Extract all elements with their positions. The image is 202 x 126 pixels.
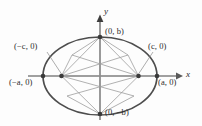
leader-right-focus (139, 52, 154, 74)
label-left-focus: (−c, 0) (14, 42, 37, 51)
point-bottom-vertex (98, 112, 103, 117)
point-right-focus (136, 74, 141, 79)
point-top-vertex (98, 35, 103, 40)
label-right-vertex: (a, 0) (158, 78, 177, 87)
x-axis-label: x (186, 70, 190, 79)
y-axis (97, 15, 104, 121)
label-left-vertex: (−a, 0) (9, 78, 32, 87)
figure-canvas (0, 0, 202, 126)
point-left-focus (59, 74, 64, 79)
label-top-vertex: (0, b) (105, 27, 124, 36)
leader-left-focus (47, 52, 62, 74)
y-axis-label: y (104, 7, 108, 16)
label-bottom-vertex: (0, −b) (105, 108, 129, 117)
label-right-focus: (c, 0) (148, 42, 167, 51)
ellipse-figure: (0, b) (0, −b) (−a, 0) (a, 0) (−c, 0) (c… (0, 0, 202, 126)
point-left-vertex (41, 74, 46, 79)
